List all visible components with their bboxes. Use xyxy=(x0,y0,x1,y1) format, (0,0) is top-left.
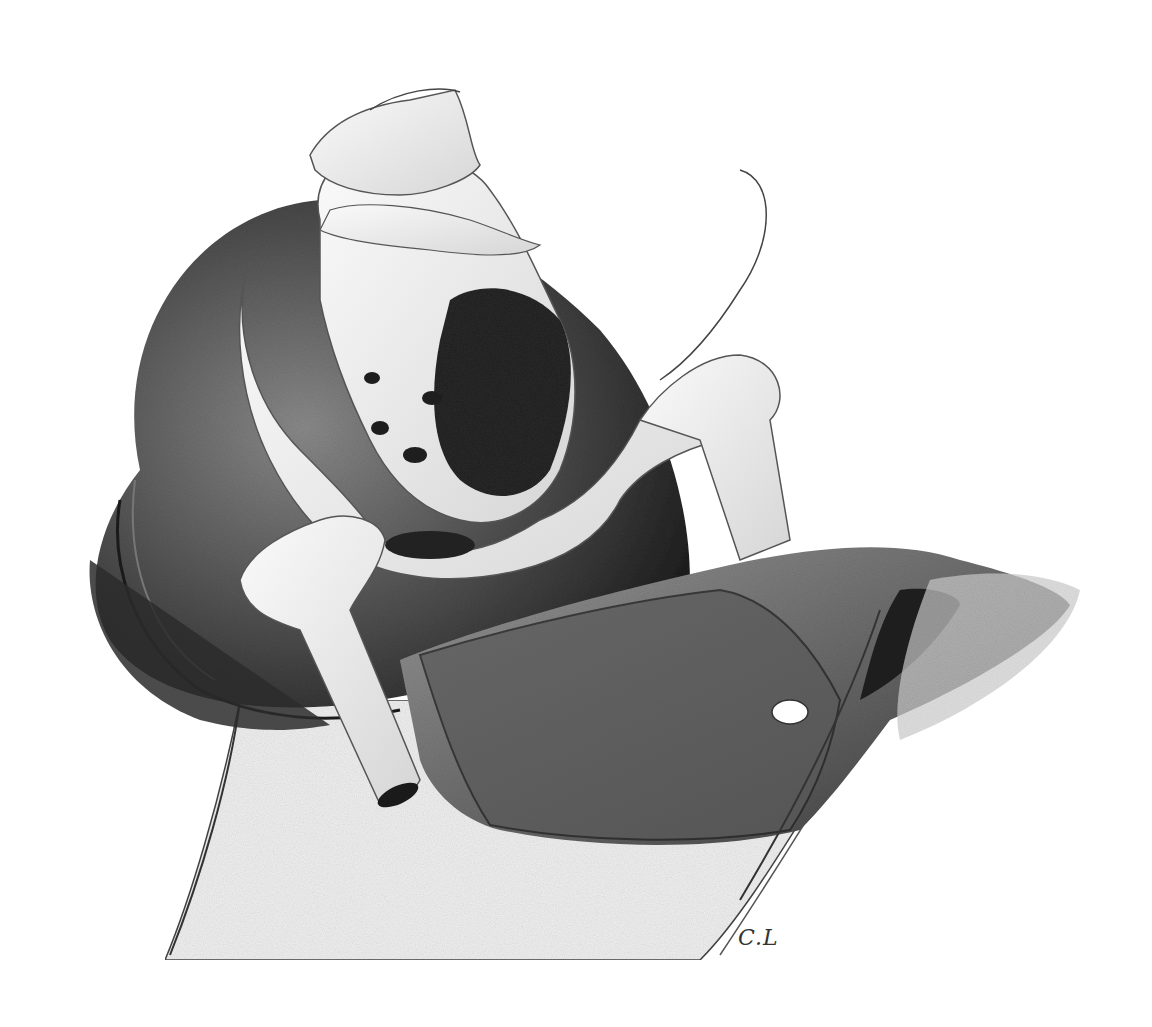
sketch-outline xyxy=(660,170,766,380)
artist-signature: C.L xyxy=(738,925,779,950)
pencil-drawing xyxy=(0,0,1152,1027)
